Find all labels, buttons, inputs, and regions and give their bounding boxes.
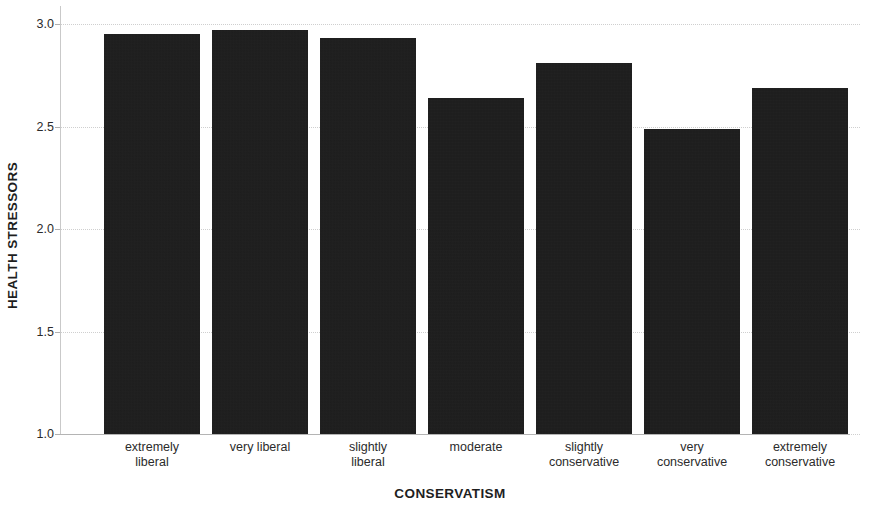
y-tick-mark — [55, 127, 60, 128]
y-axis-tick-labels: 3.02.52.01.51.0 — [8, 0, 54, 514]
y-tick-mark — [55, 24, 60, 25]
category-label-line: slightly — [312, 440, 424, 455]
category-label-line: extremely — [744, 440, 856, 455]
bar — [320, 38, 416, 434]
bars-layer — [60, 0, 860, 434]
bar — [104, 34, 200, 434]
y-tick-label: 3.0 — [14, 17, 54, 31]
bar — [536, 63, 632, 434]
bar — [428, 98, 524, 434]
category-label: extremelyliberal — [96, 440, 208, 470]
y-tick-label: 1.0 — [14, 427, 54, 441]
category-label-line: conservative — [744, 455, 856, 470]
category-label: slightlyliberal — [312, 440, 424, 470]
category-label: slightlyconservative — [528, 440, 640, 470]
category-label-line: very — [636, 440, 748, 455]
category-label: moderate — [420, 440, 532, 455]
y-tick-mark — [55, 434, 60, 435]
bar — [644, 129, 740, 434]
category-label: very liberal — [204, 440, 316, 455]
category-label-line: conservative — [636, 455, 748, 470]
category-label-line: liberal — [96, 455, 208, 470]
category-label: veryconservative — [636, 440, 748, 470]
x-axis-line — [60, 434, 850, 435]
category-label-line: conservative — [528, 455, 640, 470]
y-tick-label: 2.5 — [14, 120, 54, 134]
x-axis-title: CONSERVATISM — [60, 486, 840, 501]
category-label-line: extremely — [96, 440, 208, 455]
x-axis-category-labels: extremelyliberalvery liberalslightlylibe… — [60, 440, 860, 484]
y-tick-mark — [55, 229, 60, 230]
category-label-line: liberal — [312, 455, 424, 470]
category-label: extremelyconservative — [744, 440, 856, 470]
y-tick-mark — [55, 332, 60, 333]
bar-chart: HEALTH STRESSORS 3.02.52.01.51.0 extreme… — [0, 0, 872, 514]
category-label-line: very liberal — [204, 440, 316, 455]
bar — [752, 88, 848, 434]
bar — [212, 30, 308, 434]
category-label-line: moderate — [420, 440, 532, 455]
y-tick-label: 1.5 — [14, 325, 54, 339]
y-tick-label: 2.0 — [14, 222, 54, 236]
category-label-line: slightly — [528, 440, 640, 455]
